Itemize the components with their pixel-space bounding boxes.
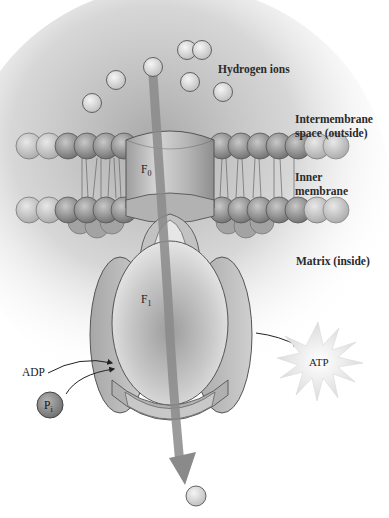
- hydrogen-ion: [144, 58, 163, 77]
- label-f0: F0: [141, 162, 151, 181]
- label-pi-sub: i: [50, 405, 52, 414]
- hydrogen-ion: [83, 94, 102, 113]
- label-f1-sub: 1: [147, 299, 151, 308]
- label-adp: ADP: [22, 365, 45, 379]
- label-intermembrane-line2: space (outside): [295, 126, 368, 140]
- label-f1: F1: [141, 292, 151, 311]
- label-pi: Pi: [44, 398, 53, 417]
- label-inner-membrane-line2: membrane: [295, 184, 348, 198]
- f0-subunit: [126, 131, 214, 223]
- label-f0-sub: 0: [147, 169, 151, 178]
- hydrogen-ion: [193, 41, 212, 60]
- hydrogen-ion-released: [186, 486, 206, 506]
- upper-lipid-layer-left: [16, 133, 137, 159]
- label-atp: ATP: [309, 355, 329, 369]
- hydrogen-ion: [214, 83, 233, 102]
- label-matrix: Matrix (inside): [296, 254, 370, 268]
- label-inner-membrane-line1: Inner: [295, 170, 322, 184]
- label-hydrogen-ions: Hydrogen ions: [218, 62, 290, 76]
- hydrogen-ion: [107, 71, 126, 90]
- label-intermembrane-line1: Intermembrane: [295, 112, 373, 126]
- hydrogen-ion: [181, 73, 200, 92]
